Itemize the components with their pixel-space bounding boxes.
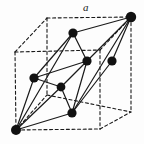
atom-marker-face-top	[68, 28, 77, 37]
cube-edge-back-bottom	[47, 95, 131, 112]
cube-edge-bottom-right-depth	[100, 112, 131, 129]
edge-length-label-a: a	[83, 2, 89, 13]
edge-face-right-to-face-bottom	[72, 61, 112, 113]
atom-marker-origin	[11, 125, 21, 135]
cube-edge-front-left	[15, 52, 16, 130]
cube-edge-back-top	[47, 17, 131, 18]
edge-face-top-to-face-mid	[73, 33, 87, 61]
atom-marker-face-bottom	[67, 108, 76, 117]
lattice-svg-canvas	[0, 0, 144, 144]
atom-marker-face-left	[29, 73, 38, 82]
atom-marker-face-right	[107, 56, 116, 65]
lattice-figure: a	[0, 0, 144, 144]
cube-edge-front-bottom	[16, 129, 100, 130]
atom-marker-apex	[126, 12, 136, 22]
edge-apex-to-face-right	[112, 17, 131, 61]
cube-edge-top-left-depth	[15, 18, 47, 52]
atom-marker-face-mid	[82, 56, 91, 65]
atom-marker-body-inner	[57, 83, 66, 92]
